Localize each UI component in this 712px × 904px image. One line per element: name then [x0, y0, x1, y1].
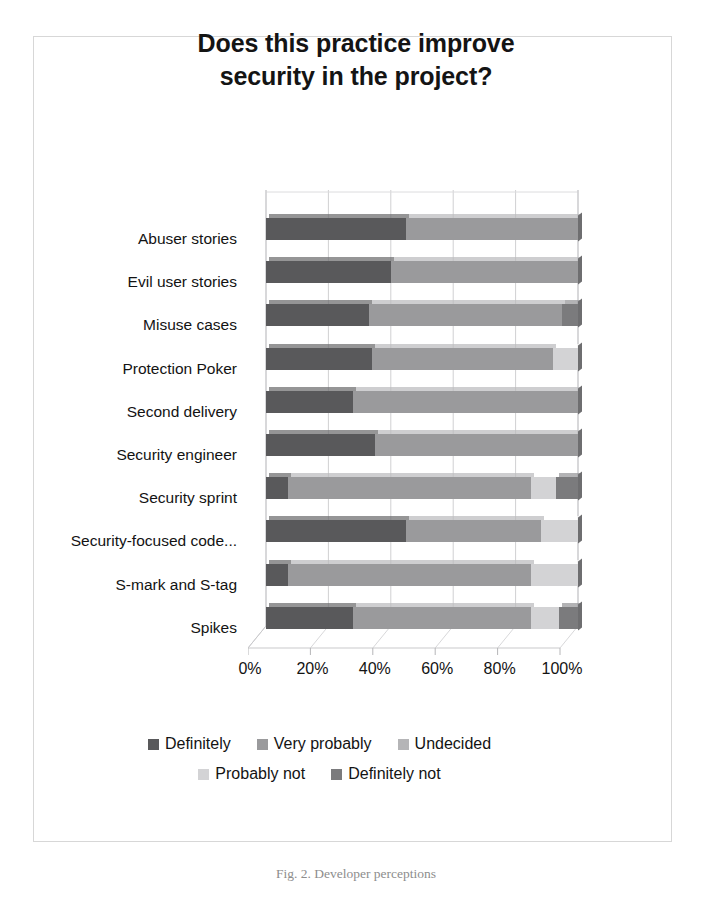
legend-item[interactable]: Definitely not	[331, 765, 441, 783]
bar-segment	[406, 218, 578, 240]
bar-segment	[531, 477, 556, 499]
value-axis: 0%20%40%60%80%100%	[248, 660, 608, 690]
legend-row-primary: DefinitelyVery probablyUndecided	[0, 735, 639, 753]
bar-end-cap	[578, 385, 582, 414]
bar-stack	[266, 348, 578, 370]
bars-layer	[266, 212, 578, 640]
bar-segment	[266, 477, 288, 499]
bar-row	[266, 564, 578, 588]
bar-row	[266, 477, 578, 501]
bar-segment	[562, 304, 578, 326]
bar-segment	[541, 520, 578, 542]
legend-item[interactable]: Probably not	[198, 765, 305, 783]
bar-end-cap	[578, 342, 582, 371]
legend-label: Undecided	[415, 735, 492, 753]
bar-end-cap	[578, 212, 582, 241]
bar-segment	[406, 520, 540, 542]
bar-segment	[391, 261, 578, 283]
bar-segment	[266, 391, 353, 413]
category-label: Abuser stories	[0, 231, 237, 247]
category-label: S-mark and S-tag	[0, 577, 237, 593]
bar-segment	[556, 477, 578, 499]
category-label: Spikes	[0, 620, 237, 636]
bar-segment	[266, 520, 406, 542]
bar-end-cap	[578, 428, 582, 457]
category-label: Misuse cases	[0, 317, 237, 333]
bar-stack	[266, 434, 578, 456]
category-label: Protection Poker	[0, 361, 237, 377]
bar-segment	[353, 391, 578, 413]
bar-segment	[531, 564, 578, 586]
legend-label: Very probably	[274, 735, 372, 753]
bar-row	[266, 607, 578, 631]
legend-swatch-icon	[257, 739, 268, 750]
legend-swatch-icon	[198, 769, 209, 780]
bar-segment	[531, 607, 559, 629]
figure-caption: Fig. 2. Developer perceptions	[0, 866, 712, 882]
bar-segment	[266, 607, 353, 629]
category-axis: Abuser storiesEvil user storiesMisuse ca…	[0, 204, 245, 644]
x-tick-label: 40%	[359, 660, 391, 678]
bar-end-cap	[578, 472, 582, 501]
x-tick-label: 100%	[542, 660, 583, 678]
legend-item[interactable]: Definitely	[148, 735, 231, 753]
bar-stack	[266, 607, 578, 629]
plot-region: Abuser storiesEvil user storiesMisuse ca…	[0, 190, 639, 660]
bar-stack	[266, 261, 578, 283]
chart-plot-area	[248, 190, 582, 655]
bar-segment	[559, 607, 578, 629]
category-label: Evil user stories	[0, 274, 237, 290]
bar-end-cap	[578, 558, 582, 587]
bar-row	[266, 304, 578, 328]
chart-title: Does this practice improve security in t…	[0, 27, 712, 93]
bar-row	[266, 391, 578, 415]
bar-stack	[266, 520, 578, 542]
category-label: Security sprint	[0, 490, 237, 506]
x-tick-label: 60%	[421, 660, 453, 678]
bar-segment	[288, 564, 531, 586]
legend-swatch-icon	[148, 739, 159, 750]
bar-end-cap	[578, 515, 582, 544]
legend-item[interactable]: Very probably	[257, 735, 372, 753]
chart-legend: DefinitelyVery probablyUndecided Probabl…	[0, 735, 639, 795]
bar-row	[266, 261, 578, 285]
bar-row	[266, 348, 578, 372]
bar-end-cap	[578, 256, 582, 285]
bar-stack	[266, 304, 578, 326]
bar-segment	[266, 261, 391, 283]
bar-row	[266, 434, 578, 458]
bar-stack	[266, 391, 578, 413]
bar-end-cap	[578, 299, 582, 328]
x-tick-label: 80%	[484, 660, 516, 678]
bar-segment	[266, 304, 369, 326]
bar-stack	[266, 218, 578, 240]
bar-row	[266, 520, 578, 544]
legend-swatch-icon	[331, 769, 342, 780]
legend-label: Probably not	[215, 765, 305, 783]
bar-stack	[266, 477, 578, 499]
category-label: Security engineer	[0, 447, 237, 463]
bar-segment	[353, 607, 531, 629]
chart-title-line-1: Does this practice improve	[0, 27, 712, 60]
bar-segment	[553, 348, 578, 370]
bar-end-cap	[578, 601, 582, 630]
bar-segment	[266, 348, 372, 370]
bar-stack	[266, 564, 578, 586]
category-label: Security-focused code...	[0, 533, 237, 549]
category-label: Second delivery	[0, 404, 237, 420]
bar-segment	[266, 434, 375, 456]
x-tick-label: 0%	[238, 660, 261, 678]
legend-label: Definitely not	[348, 765, 441, 783]
legend-swatch-icon	[398, 739, 409, 750]
bar-segment	[266, 564, 288, 586]
bar-segment	[288, 477, 531, 499]
bar-segment	[369, 304, 562, 326]
bar-segment	[375, 434, 578, 456]
bar-segment	[372, 348, 553, 370]
legend-label: Definitely	[165, 735, 231, 753]
legend-item[interactable]: Undecided	[398, 735, 492, 753]
legend-row-secondary: Probably notDefinitely not	[0, 765, 639, 783]
bar-segment	[266, 218, 406, 240]
bar-row	[266, 218, 578, 242]
chart-title-line-2: security in the project?	[0, 60, 712, 93]
